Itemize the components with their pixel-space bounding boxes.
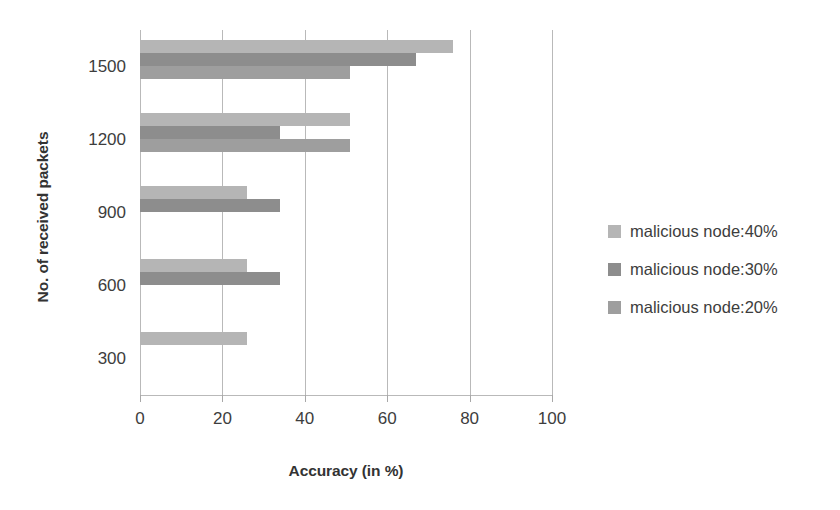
bar[interactable] <box>140 113 350 126</box>
bar-group-600 <box>140 249 552 322</box>
legend-item-label: malicious node:40% <box>630 223 778 240</box>
x-tick-mark-100 <box>552 395 553 402</box>
legend-swatch-icon <box>608 263 621 276</box>
legend-item-label: malicious node:30% <box>630 261 778 278</box>
legend-item[interactable]: malicious node:30% <box>608 250 834 288</box>
bar-chart-figure: No. of received packets 3006009001200150… <box>0 0 840 510</box>
x-axis-tick-marks <box>140 395 552 405</box>
bar[interactable] <box>140 66 350 79</box>
x-axis-tick-labels: 020406080100 <box>140 410 552 436</box>
bar-group-300 <box>140 322 552 395</box>
bar-group-1200 <box>140 103 552 176</box>
gridline-100 <box>552 30 553 395</box>
x-axis-title: Accuracy (in %) <box>140 462 552 480</box>
legend: malicious node:40%malicious node:30%mali… <box>608 212 834 326</box>
bar[interactable] <box>140 199 280 212</box>
bar[interactable] <box>140 40 453 53</box>
y-tick-label-1500: 1500 <box>88 58 126 75</box>
x-tick-label-20: 20 <box>213 410 232 427</box>
y-tick-label-600: 600 <box>98 277 126 294</box>
legend-swatch-icon <box>608 301 621 314</box>
legend-swatch-icon <box>608 225 621 238</box>
x-tick-label-80: 80 <box>460 410 479 427</box>
y-tick-label-300: 300 <box>98 350 126 367</box>
y-axis-tick-labels: 30060090012001500 <box>56 30 132 395</box>
legend-item[interactable]: malicious node:40% <box>608 212 834 250</box>
plot-area <box>140 30 552 395</box>
bar[interactable] <box>140 186 247 199</box>
x-tick-mark-40 <box>305 395 306 402</box>
x-tick-mark-0 <box>140 395 141 402</box>
x-tick-mark-60 <box>387 395 388 402</box>
bar[interactable] <box>140 126 280 139</box>
legend-item-label: malicious node:20% <box>630 299 778 316</box>
legend-item[interactable]: malicious node:20% <box>608 288 834 326</box>
x-tick-mark-80 <box>470 395 471 402</box>
bar[interactable] <box>140 53 416 66</box>
y-tick-label-900: 900 <box>98 204 126 221</box>
bar[interactable] <box>140 259 247 272</box>
x-tick-mark-20 <box>222 395 223 402</box>
x-tick-label-40: 40 <box>295 410 314 427</box>
x-tick-label-60: 60 <box>378 410 397 427</box>
bar[interactable] <box>140 139 350 152</box>
bar-group-1500 <box>140 30 552 103</box>
bar-group-900 <box>140 176 552 249</box>
y-axis-title: No. of received packets <box>34 102 52 332</box>
y-tick-label-1200: 1200 <box>88 131 126 148</box>
x-tick-label-0: 0 <box>135 410 144 427</box>
bar[interactable] <box>140 272 280 285</box>
x-tick-label-100: 100 <box>538 410 566 427</box>
bar[interactable] <box>140 332 247 345</box>
